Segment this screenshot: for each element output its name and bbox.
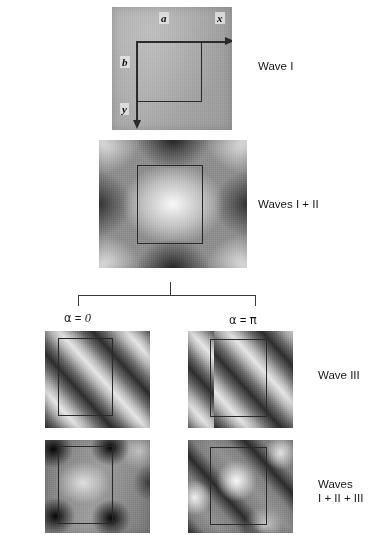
wave-iii-alpha-pi-panel	[188, 331, 293, 428]
alpha-equals-pi-label: α = π	[229, 313, 257, 327]
alpha-zero-value: 0	[85, 311, 91, 325]
alpha-equals-zero-label: α = 0	[64, 311, 91, 326]
unit-cell-rectangle	[58, 338, 113, 416]
waves-all-caption-line-2: I + II + III	[318, 492, 363, 506]
bracket-left-drop	[78, 295, 79, 306]
alpha-symbol: α	[229, 313, 237, 327]
alpha-pi-value: π	[250, 313, 257, 327]
waves-all-caption: Waves I + II + III	[318, 478, 363, 505]
lattice-parameter-a-label: a	[159, 12, 169, 24]
bracket-stem	[170, 282, 171, 296]
waves-i-ii-caption: Waves I + II	[258, 198, 319, 212]
wave-i-caption: Wave I	[258, 60, 293, 74]
x-axis-label: x	[215, 12, 225, 24]
waves-all-alpha-pi-panel	[188, 440, 293, 533]
y-axis-label: y	[120, 103, 129, 115]
y-axis-arrowhead	[133, 120, 141, 129]
lattice-parameter-b-label: b	[120, 56, 130, 68]
unit-cell-rectangle	[136, 41, 202, 102]
equals-sign: =	[75, 312, 82, 324]
equals-sign: =	[240, 314, 247, 326]
bracket-horizontal	[78, 295, 256, 296]
waves-i-ii-panel	[99, 140, 247, 268]
unit-cell-rectangle	[210, 447, 267, 525]
alpha-symbol: α	[64, 311, 72, 325]
wave-iii-alpha-0-panel	[45, 331, 150, 428]
wave-i-panel: a x b y	[112, 7, 232, 130]
bracket-right-drop	[255, 295, 256, 306]
unit-cell-rectangle	[58, 446, 113, 524]
waves-all-caption-line-1: Waves	[318, 478, 363, 492]
unit-cell-rectangle	[137, 165, 203, 244]
x-axis-arrowhead	[225, 37, 232, 45]
wave-superposition-figure: a x b y Wave I Waves I + II α = 0 α = π	[0, 0, 387, 535]
waves-all-alpha-0-panel	[45, 440, 150, 533]
unit-cell-rectangle	[210, 339, 267, 417]
wave-iii-caption: Wave III	[318, 369, 360, 383]
